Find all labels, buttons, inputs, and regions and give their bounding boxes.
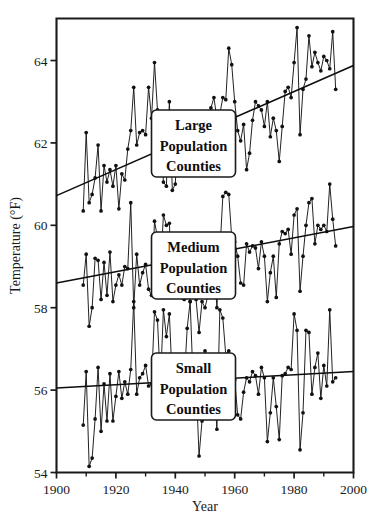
data-point-marker xyxy=(242,283,246,287)
data-point-marker xyxy=(292,312,296,316)
legend-label-line: Counties xyxy=(166,158,221,174)
data-point-marker xyxy=(114,283,118,287)
y-axis-tick-label: 56 xyxy=(34,383,48,398)
data-point-marker xyxy=(168,221,172,225)
data-point-marker xyxy=(123,178,127,182)
data-point-marker xyxy=(153,219,157,223)
data-point-marker xyxy=(295,26,299,30)
data-point-marker xyxy=(239,139,243,143)
data-point-marker xyxy=(105,294,109,298)
data-point-marker xyxy=(114,164,118,168)
data-point-marker xyxy=(87,324,91,328)
data-point-marker xyxy=(295,207,299,211)
data-point-marker xyxy=(307,201,311,205)
data-point-marker xyxy=(212,96,216,100)
data-point-marker xyxy=(274,129,278,133)
data-point-marker xyxy=(105,419,109,423)
legend-box-1: MediumPopulationCounties xyxy=(152,232,236,299)
data-point-marker xyxy=(129,129,133,133)
data-point-marker xyxy=(218,308,222,312)
data-point-marker xyxy=(108,372,112,376)
data-point-marker xyxy=(105,180,109,184)
data-point-marker xyxy=(117,207,121,211)
data-point-marker xyxy=(102,164,106,168)
data-point-marker xyxy=(307,34,311,38)
data-point-marker xyxy=(313,50,317,54)
data-point-marker xyxy=(129,368,133,372)
data-point-marker xyxy=(328,67,332,71)
legend-label-line: Population xyxy=(160,260,228,276)
data-point-marker xyxy=(257,392,261,396)
data-point-marker xyxy=(120,283,124,287)
data-point-marker xyxy=(301,411,305,415)
data-point-marker xyxy=(221,195,225,199)
data-point-marker xyxy=(162,213,166,217)
data-point-marker xyxy=(254,246,258,250)
y-axis-tick-label: 54 xyxy=(34,466,48,481)
data-point-marker xyxy=(316,223,320,227)
data-point-marker xyxy=(173,182,177,186)
data-point-marker xyxy=(224,98,228,102)
data-point-marker xyxy=(197,454,201,458)
data-point-marker xyxy=(120,172,124,176)
data-point-marker xyxy=(301,254,305,258)
data-point-marker xyxy=(144,364,148,368)
data-point-marker xyxy=(81,423,85,427)
data-point-marker xyxy=(156,318,160,322)
data-point-marker xyxy=(334,244,338,248)
data-point-marker xyxy=(102,261,106,265)
data-point-marker xyxy=(331,380,335,384)
data-point-marker xyxy=(274,296,278,300)
data-point-marker xyxy=(277,242,281,246)
data-point-marker xyxy=(236,254,240,258)
data-point-marker xyxy=(126,147,130,151)
data-point-marker xyxy=(236,413,240,417)
x-axis-tick-label: 1960 xyxy=(221,482,248,497)
data-point-marker xyxy=(185,326,189,330)
data-point-marker xyxy=(135,252,139,256)
data-point-marker xyxy=(96,143,100,147)
data-point-marker xyxy=(230,63,234,67)
data-point-marker xyxy=(251,118,255,122)
y-axis-title: Temperature (°F) xyxy=(8,197,24,294)
data-point-marker xyxy=(254,100,258,104)
data-point-marker xyxy=(111,300,115,304)
data-point-marker xyxy=(227,46,231,50)
data-point-marker xyxy=(99,298,103,302)
data-point-marker xyxy=(310,392,314,396)
data-point-marker xyxy=(328,308,332,312)
data-point-marker xyxy=(298,448,302,452)
data-point-marker xyxy=(90,306,94,310)
x-axis-tick-label: 2000 xyxy=(340,482,367,497)
data-point-marker xyxy=(271,116,275,120)
data-point-marker xyxy=(322,223,326,227)
data-point-marker xyxy=(162,308,166,312)
data-point-marker xyxy=(153,61,157,65)
data-point-marker xyxy=(277,438,281,442)
data-point-marker xyxy=(268,411,272,415)
x-axis-tick-label: 1900 xyxy=(43,482,70,497)
data-point-marker xyxy=(271,254,275,258)
data-point-marker xyxy=(188,300,192,304)
data-point-marker xyxy=(81,209,85,213)
legend-label-line: Counties xyxy=(166,280,221,296)
data-point-marker xyxy=(292,213,296,217)
data-point-marker xyxy=(328,182,332,186)
data-point-marker xyxy=(289,252,293,256)
data-point-marker xyxy=(135,143,139,147)
data-point-marker xyxy=(292,61,296,65)
legend-box-0: LargePopulationCounties xyxy=(152,110,236,177)
chart-canvas: 545658606264190019201940196019802000Year… xyxy=(0,0,384,529)
data-point-marker xyxy=(319,69,323,73)
data-point-marker xyxy=(289,368,293,372)
data-point-marker xyxy=(319,228,323,232)
data-point-marker xyxy=(147,287,151,291)
data-point-marker xyxy=(334,376,338,380)
temperature-trend-chart: 545658606264190019201940196019802000Year… xyxy=(0,0,384,529)
data-point-marker xyxy=(215,427,219,431)
data-point-marker xyxy=(141,271,145,275)
data-point-marker xyxy=(239,417,243,421)
data-point-marker xyxy=(251,370,255,374)
data-point-marker xyxy=(141,372,145,376)
data-point-marker xyxy=(316,61,320,65)
